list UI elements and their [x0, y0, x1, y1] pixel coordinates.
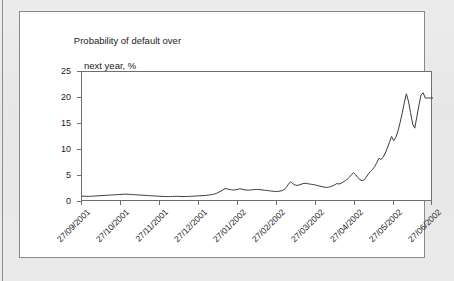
- figure-panel: Probability of default over next year, %…: [19, 11, 425, 258]
- y-tick-label: 10: [51, 145, 71, 154]
- y-tick-label: 25: [51, 67, 71, 76]
- page-edge-rule: [2, 0, 3, 281]
- y-tick-label: 20: [51, 93, 71, 102]
- y-tick-label: 5: [51, 171, 71, 180]
- plot-svg: [82, 72, 433, 202]
- y-tick-label: 15: [51, 119, 71, 128]
- chart-title-line-1: Probability of default over: [74, 35, 181, 46]
- plot-area: [81, 71, 432, 201]
- figure-root: Probability of default over next year, %…: [0, 0, 454, 281]
- series-line-probability-of-default: [82, 93, 433, 197]
- y-tick-label: 0: [51, 197, 71, 206]
